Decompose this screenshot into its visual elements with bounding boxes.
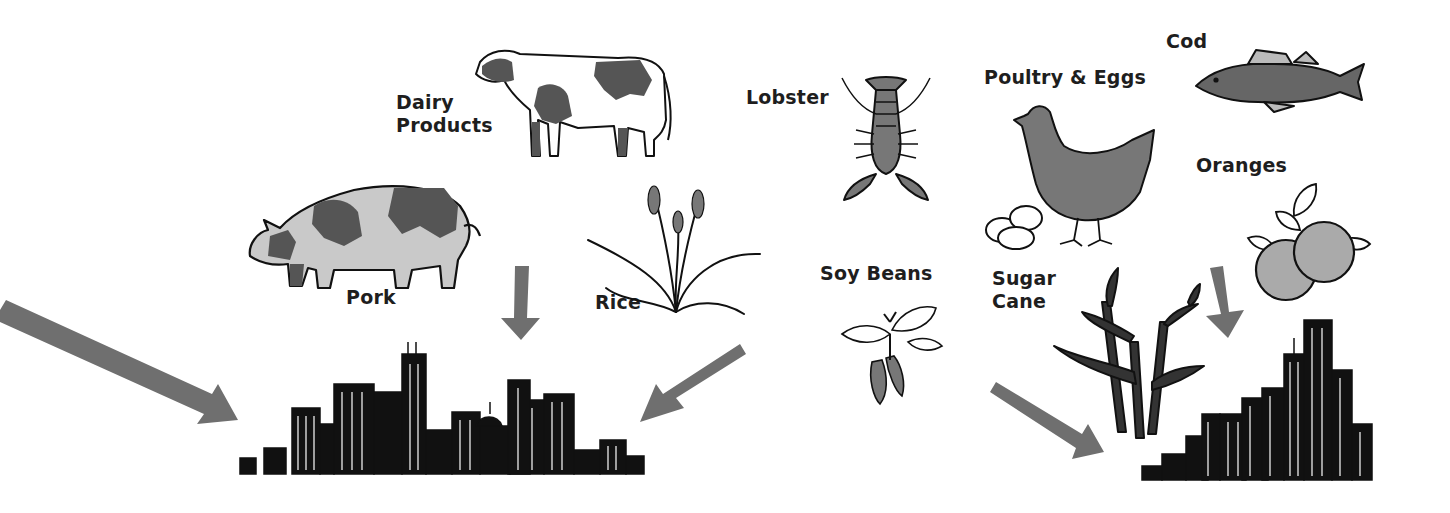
hen-with-eggs-icon <box>982 100 1162 250</box>
lobster-icon <box>836 74 936 214</box>
arrow-left-to-city-icon <box>0 300 238 424</box>
city-skyline-right-icon <box>1138 318 1378 488</box>
city-skyline-left-icon <box>236 340 646 480</box>
arrow-rice-to-city-icon <box>640 344 746 422</box>
soy-plant-icon <box>838 300 948 410</box>
oranges-icon <box>1244 182 1374 302</box>
rice-plant-icon <box>584 182 764 322</box>
fish-icon <box>1194 46 1370 112</box>
pig-icon <box>244 176 484 296</box>
arrow-pork-to-city-icon <box>501 266 540 340</box>
cow-icon <box>468 40 678 160</box>
